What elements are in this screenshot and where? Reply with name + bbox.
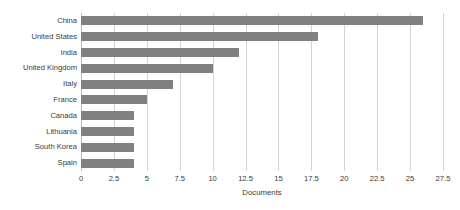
bar-row — [81, 139, 443, 155]
x-axis-tick-label: 25 — [406, 174, 414, 183]
x-axis-tick-label: 5 — [145, 174, 149, 183]
y-axis-label: United Kingdom — [0, 60, 77, 76]
bar-chart: ChinaUnited StatesIndiaUnited KingdomIta… — [0, 0, 460, 210]
gridline — [443, 13, 444, 171]
x-axis-tick-label: 27.5 — [436, 174, 451, 183]
y-axis-label: Italy — [0, 76, 77, 92]
bar — [81, 64, 213, 73]
x-axis-tick-label: 0 — [79, 174, 83, 183]
x-axis-tick-label: 12.5 — [238, 174, 253, 183]
bar-row — [81, 13, 443, 29]
bar-row — [81, 92, 443, 108]
y-axis-label: South Korea — [0, 139, 77, 155]
plot-area — [81, 13, 443, 171]
bars-layer — [81, 13, 443, 171]
bar-row — [81, 29, 443, 45]
bar — [81, 143, 134, 152]
y-axis-label: China — [0, 13, 77, 29]
y-axis-category-labels: ChinaUnited StatesIndiaUnited KingdomIta… — [0, 13, 77, 171]
y-axis-label: Canada — [0, 108, 77, 124]
x-axis-tick-label: 7.5 — [174, 174, 185, 183]
x-axis-tick-label: 20 — [340, 174, 348, 183]
x-axis-title: Documents — [81, 188, 443, 197]
x-axis-tick-label: 15 — [274, 174, 282, 183]
x-axis-tick-label: 2.5 — [109, 174, 120, 183]
bar — [81, 111, 134, 120]
y-axis-label: Spain — [0, 155, 77, 171]
x-axis-tick-label: 10 — [208, 174, 216, 183]
bar — [81, 159, 134, 168]
bar-row — [81, 108, 443, 124]
y-axis-label: India — [0, 45, 77, 61]
bar-row — [81, 76, 443, 92]
x-axis-tick-label: 22.5 — [370, 174, 385, 183]
y-axis-label: France — [0, 92, 77, 108]
bar — [81, 80, 173, 89]
bar — [81, 95, 147, 104]
y-axis-label: Lithuania — [0, 124, 77, 140]
bar-row — [81, 45, 443, 61]
bar-row — [81, 60, 443, 76]
x-axis-tick-labels: 02.557.51012.51517.52022.52527.5 — [0, 174, 460, 186]
y-axis-label: United States — [0, 29, 77, 45]
bar-row — [81, 155, 443, 171]
bar — [81, 127, 134, 136]
bar — [81, 48, 239, 57]
x-axis-tick-label: 17.5 — [304, 174, 319, 183]
bar-row — [81, 124, 443, 140]
bar — [81, 32, 318, 41]
bar — [81, 16, 423, 25]
